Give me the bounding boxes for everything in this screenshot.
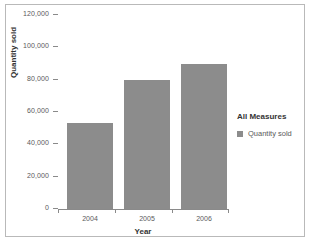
legend-title: All Measures (237, 112, 313, 121)
chart-legend: All Measures Quantity sold (237, 112, 313, 138)
bar-2004[interactable] (67, 123, 113, 209)
x-axis-line (58, 209, 228, 210)
y-tick-label: 20,000 (27, 172, 49, 179)
y-tick-label: 80,000 (27, 75, 49, 82)
x-tick (172, 209, 173, 213)
y-tick-label: 100,000 (23, 42, 49, 49)
x-category-2006: 2006 (176, 215, 232, 222)
y-tick-dash (53, 176, 58, 177)
y-tick-label: 120,000 (23, 10, 49, 17)
x-tick (228, 209, 229, 213)
y-tick-label: 40,000 (27, 139, 49, 146)
x-category-2005: 2005 (119, 215, 175, 222)
legend-item-label: Quantity sold (248, 129, 292, 138)
y-tick-label: 0 (45, 204, 49, 211)
y-tick-dash (53, 143, 58, 144)
x-tick (58, 209, 59, 213)
y-tick-dash (53, 111, 58, 112)
bar-2005[interactable] (124, 80, 170, 209)
x-tick (115, 209, 116, 213)
x-category-2004: 2004 (62, 215, 118, 222)
x-axis-title: Year (58, 227, 228, 236)
bar-chart: 120,000 100,000 80,000 60,000 40,000 20,… (0, 0, 316, 245)
y-tick-dash (53, 14, 58, 15)
y-axis-title: Quantity sold (9, 27, 18, 78)
legend-swatch-icon (237, 131, 243, 137)
y-tick-dash (53, 46, 58, 47)
bar-2006[interactable] (181, 64, 227, 210)
y-tick-dash (53, 79, 58, 80)
y-tick-label: 60,000 (27, 107, 49, 114)
legend-item-quantity-sold[interactable]: Quantity sold (237, 129, 313, 138)
